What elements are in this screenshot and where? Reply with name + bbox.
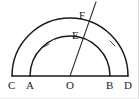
point-label-a: A — [26, 80, 34, 91]
geometry-figure-canvas: C A O B D E F — [0, 0, 139, 99]
outer-semicircle-arc — [12, 18, 128, 76]
point-label-d: D — [124, 80, 132, 91]
bottom-edge-rule — [0, 98, 139, 99]
inner-semicircle-arc — [30, 36, 110, 76]
point-label-b: B — [106, 80, 113, 91]
point-label-f: F — [79, 10, 85, 21]
point-label-e: E — [72, 30, 79, 41]
point-label-c: C — [8, 80, 15, 91]
right-edge-rule — [138, 0, 139, 99]
outer-arc-tick-mark-icon — [110, 41, 115, 46]
point-label-o: O — [66, 80, 74, 91]
